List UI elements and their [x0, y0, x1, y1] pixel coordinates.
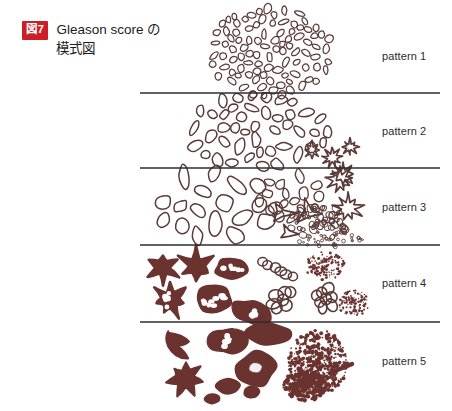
pattern-label-4: pattern 4 [382, 277, 426, 289]
pattern-bands-group [148, 3, 369, 404]
pattern-band-3 [153, 162, 364, 249]
pattern-label-3: pattern 3 [382, 201, 426, 213]
pattern-band-4 [148, 245, 369, 331]
pattern-band-1 [208, 3, 335, 101]
pattern-label-2: pattern 2 [382, 125, 426, 137]
pattern-label-5: pattern 5 [382, 355, 426, 367]
pattern-band-5 [166, 323, 352, 404]
pattern-label-1: pattern 1 [382, 50, 426, 62]
pattern-band-2 [186, 90, 359, 173]
